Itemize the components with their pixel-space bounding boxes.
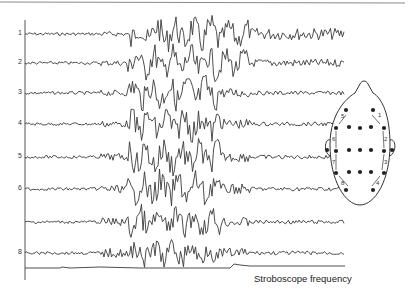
electrode-dot [325,148,329,152]
electrode-dot [369,125,373,129]
channel-label-5: 5 [18,152,22,159]
eeg-traces [25,15,344,267]
electrode-dot [371,108,375,112]
electrode-dot [390,148,394,152]
electrode-dot [369,170,373,174]
eeg-trace-channel-6 [25,169,344,206]
eeg-figure: 5 1 6 2 7 3 8 4 [0,0,409,302]
electrode-dot [358,148,362,152]
channel-label-3: 3 [18,88,22,95]
electrode-dot [371,188,375,192]
electrode-dot [347,125,351,129]
electrode-dot [347,148,351,152]
electrode-dot [347,170,351,174]
eeg-trace-channel-3 [25,75,344,111]
channel-label-8: 8 [18,248,22,255]
channel-label-1: 1 [18,29,22,36]
channel-label-4: 4 [18,119,22,126]
eeg-trace-channel-4 [25,109,344,142]
electrode-dot [369,148,373,152]
stroboscope-frequency-label: Stroboscope frequency [254,273,352,284]
eeg-trace-channel-8 [25,240,344,268]
head-montage-diagram: 5 1 6 2 7 3 8 4 [325,81,395,205]
electrode-dot [344,188,348,192]
electrode-dot [382,171,386,175]
electrode-dot [334,171,338,175]
electrode-dot [382,149,386,153]
electrode-dot [382,126,386,130]
top-border [0,2,405,3]
electrode-dot [358,126,362,130]
electrode-dot [358,170,362,174]
channel-label-2: 2 [18,58,22,65]
channel-label-6: 6 [18,184,22,191]
eeg-trace-channel-1 [25,15,344,52]
eeg-trace-channel-2 [25,44,344,82]
eeg-trace-channel-7 [25,204,344,237]
electrode-dot [334,149,338,153]
electrode-dot [344,108,348,112]
eeg-trace-channel-5 [25,139,344,177]
electrode-dot [334,126,338,130]
stroboscope-trace [25,264,345,268]
